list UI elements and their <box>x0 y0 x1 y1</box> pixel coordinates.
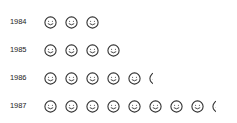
pictogram-row: 1985 <box>0 43 237 57</box>
smiley-face-icon <box>86 72 99 85</box>
smiley-face-icon <box>65 44 78 57</box>
smiley-face-icon <box>86 16 99 29</box>
smiley-face-icon <box>86 44 99 57</box>
smiley-face-icon <box>149 100 162 113</box>
partial-smiley-face-icon <box>149 72 153 85</box>
pictogram-row: 1986 <box>0 71 237 85</box>
year-label: 1984 <box>10 15 36 29</box>
smiley-face-icon <box>44 44 57 57</box>
year-label: 1986 <box>10 71 36 85</box>
smiley-face-icon <box>65 100 78 113</box>
pictogram-row: 1984 <box>0 15 237 29</box>
smiley-face-icon <box>65 72 78 85</box>
smiley-face-icon <box>128 100 141 113</box>
smiley-face-icon <box>107 100 120 113</box>
year-label: 1985 <box>10 43 36 57</box>
smiley-face-icon <box>128 72 141 85</box>
smiley-face-icon <box>107 72 120 85</box>
partial-smiley-face-icon <box>212 100 216 113</box>
smiley-face-icon <box>44 16 57 29</box>
pictogram-row: 1987 <box>0 99 237 113</box>
year-label: 1987 <box>10 99 36 113</box>
smiley-face-icon <box>65 16 78 29</box>
smiley-face-icon <box>107 44 120 57</box>
smiley-face-icon <box>191 100 204 113</box>
smiley-face-icon <box>86 100 99 113</box>
smiley-face-icon <box>170 100 183 113</box>
smiley-face-icon <box>44 100 57 113</box>
smiley-face-icon <box>44 72 57 85</box>
